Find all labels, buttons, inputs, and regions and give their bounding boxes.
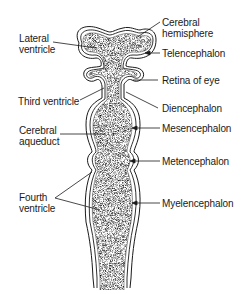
label-myelencephalon: Myelencephalon (162, 198, 233, 209)
label-diencephalon: Diencephalon (162, 103, 222, 114)
label-cerebral-hemisphere: Cerebral hemisphere (162, 17, 213, 39)
label-lateral-ventricle: Lateral ventricle (19, 33, 55, 55)
label-telencephalon: Telencephalon (162, 48, 225, 59)
label-mesencephalon: Mesencephalon (162, 123, 231, 134)
label-third-ventricle: Third ventricle (18, 96, 79, 107)
label-retina-of-eye: Retina of eye (162, 75, 220, 86)
label-cerebral-aqueduct: Cerebral aqueduct (19, 125, 59, 147)
label-fourth-ventricle: Fourth ventricle (19, 192, 55, 214)
label-metencephalon: Metencephalon (162, 156, 229, 167)
